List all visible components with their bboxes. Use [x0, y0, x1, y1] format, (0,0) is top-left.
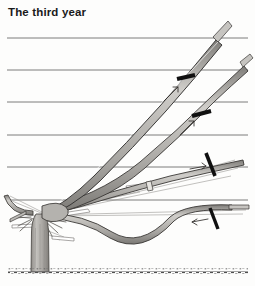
upper-left-main-arm-tip	[213, 21, 232, 42]
trunk-group	[31, 214, 49, 272]
tie-mark-2	[192, 111, 211, 116]
branch-junction-knot	[42, 203, 68, 221]
left-low-arm	[4, 195, 33, 215]
tie-mark-4	[210, 208, 218, 229]
growth-arrow-4	[192, 219, 208, 225]
soil-line	[8, 268, 248, 274]
lower-arm-tip	[229, 205, 249, 209]
growth-arrow-3	[190, 163, 206, 169]
shoot-outline-2	[52, 236, 74, 241]
tree-diagram-svg	[0, 0, 255, 286]
main-arm-highlight	[52, 42, 218, 208]
ground-group	[8, 268, 248, 274]
second-arm-tip	[240, 54, 253, 67]
illustration-figure: The third year	[0, 0, 255, 286]
